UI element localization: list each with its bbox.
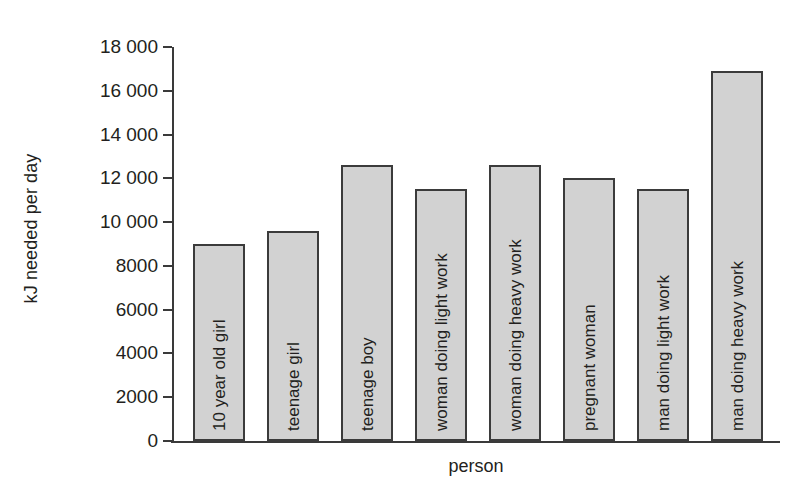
y-axis-tick-label: 2000 (46, 387, 158, 406)
y-axis-tick-mark (163, 221, 172, 223)
bar[interactable]: man doing heavy work (711, 71, 763, 441)
y-axis-tick-mark (163, 265, 172, 267)
bar-category-label: 10 year old girl (211, 319, 228, 431)
plot-area: 10 year old girlteenage girlteenage boyw… (172, 47, 780, 441)
y-axis-tick-label: 0 (46, 431, 158, 450)
y-axis-tick-labels: 0200040006000800010 00012 00014 00016 00… (46, 0, 158, 500)
y-axis-tick-mark (163, 396, 172, 398)
bar-chart-figure: kJ needed per day 0200040006000800010 00… (0, 0, 806, 500)
bar-category-label: teenage girl (285, 342, 302, 431)
y-axis-tick-mark (163, 46, 172, 48)
y-axis-tick-mark (163, 309, 172, 311)
y-axis-tick-mark (163, 134, 172, 136)
x-axis-title: person (172, 456, 780, 477)
y-axis-line (172, 47, 174, 442)
bar[interactable]: teenage boy (341, 165, 393, 441)
y-axis-tick-label: 16 000 (46, 81, 158, 100)
bar[interactable]: woman doing heavy work (489, 165, 541, 441)
bar[interactable]: man doing light work (637, 189, 689, 441)
y-axis-tick-mark (163, 177, 172, 179)
y-axis-tick-mark (163, 352, 172, 354)
bar-category-label: woman doing light work (433, 253, 450, 431)
bar-category-label: man doing heavy work (729, 261, 746, 431)
y-axis-tick-label: 18 000 (46, 37, 158, 56)
x-axis-line (171, 441, 780, 443)
y-axis-tick-mark (163, 90, 172, 92)
bar[interactable]: 10 year old girl (193, 244, 245, 441)
bar-category-label: woman doing heavy work (507, 239, 524, 431)
y-axis-tick-label: 8000 (46, 256, 158, 275)
y-axis-tick-label: 10 000 (46, 212, 158, 231)
bar-category-label: teenage boy (359, 337, 376, 431)
bar-category-label: pregnant woman (581, 304, 598, 431)
y-axis-tick-label: 6000 (46, 300, 158, 319)
y-axis-tick-label: 4000 (46, 343, 158, 362)
y-axis-title: kJ needed per day (21, 119, 42, 339)
y-axis-tick-label: 12 000 (46, 168, 158, 187)
bar[interactable]: teenage girl (267, 231, 319, 441)
y-axis-tick-mark (163, 440, 172, 442)
bar[interactable]: pregnant woman (563, 178, 615, 441)
bar-category-label: man doing light work (655, 275, 672, 431)
bar[interactable]: woman doing light work (415, 189, 467, 441)
y-axis-tick-label: 14 000 (46, 125, 158, 144)
